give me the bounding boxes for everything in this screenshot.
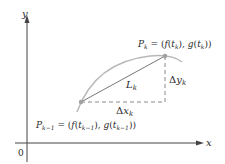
x-axis-label: x bbox=[206, 137, 212, 148]
delta-x-label: Δxk bbox=[116, 105, 133, 118]
point-p-prev bbox=[79, 100, 83, 104]
x-axis-arrow-icon bbox=[196, 141, 204, 146]
arc-length-diagram: y x 0 Lk Δxk Δyk Pk = (f(tk), g(tk)) Pk−… bbox=[0, 0, 225, 164]
segment-label: Lk bbox=[125, 79, 137, 92]
origin-label: 0 bbox=[18, 148, 24, 158]
y-axis-label: y bbox=[21, 8, 28, 19]
p-prev-label: Pk−1 = (f(tk−1), g(tk−1)) bbox=[35, 120, 136, 131]
point-p-curr bbox=[163, 54, 167, 58]
p-curr-label: Pk = (f(tk), g(tk)) bbox=[137, 39, 211, 50]
delta-y-label: Δyk bbox=[169, 74, 186, 87]
